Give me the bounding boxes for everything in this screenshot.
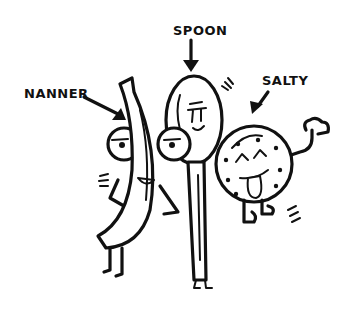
arrow-salty-icon	[250, 92, 268, 114]
salty-character	[216, 118, 328, 222]
cartoon-svg: NANNER SPOON SALTY	[0, 0, 355, 309]
label-spoon: SPOON	[173, 23, 227, 38]
arrow-spoon-icon	[183, 40, 199, 72]
label-nanner: NANNER	[24, 86, 89, 101]
arrow-nanner-icon	[84, 97, 126, 120]
label-salty: SALTY	[262, 73, 308, 88]
cartoon-illustration: NANNER SPOON SALTY	[0, 0, 355, 309]
